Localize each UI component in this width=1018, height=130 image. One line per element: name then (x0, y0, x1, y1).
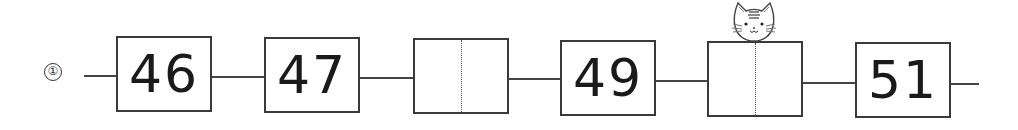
digit-divider (461, 40, 462, 112)
number-box-4: 49 (560, 40, 656, 116)
number-value: 51 (868, 50, 938, 110)
connector-line (508, 78, 560, 80)
connector-line (656, 80, 707, 82)
connector-line (84, 75, 116, 77)
number-box-6: 51 (855, 42, 951, 118)
number-value: 49 (573, 48, 643, 108)
problem-number: ① (44, 63, 62, 81)
cat-face-icon (729, 0, 779, 42)
connector-line (951, 83, 979, 85)
number-value: 46 (129, 44, 199, 104)
connector-line (212, 76, 264, 78)
number-value: 47 (277, 45, 347, 105)
answer-box-1[interactable] (413, 38, 509, 114)
digit-divider (755, 43, 756, 115)
connector-line (360, 77, 413, 79)
number-box-2: 47 (264, 37, 360, 113)
connector-line (803, 82, 855, 84)
number-box-1: 46 (116, 36, 212, 112)
answer-box-2[interactable] (707, 41, 803, 117)
